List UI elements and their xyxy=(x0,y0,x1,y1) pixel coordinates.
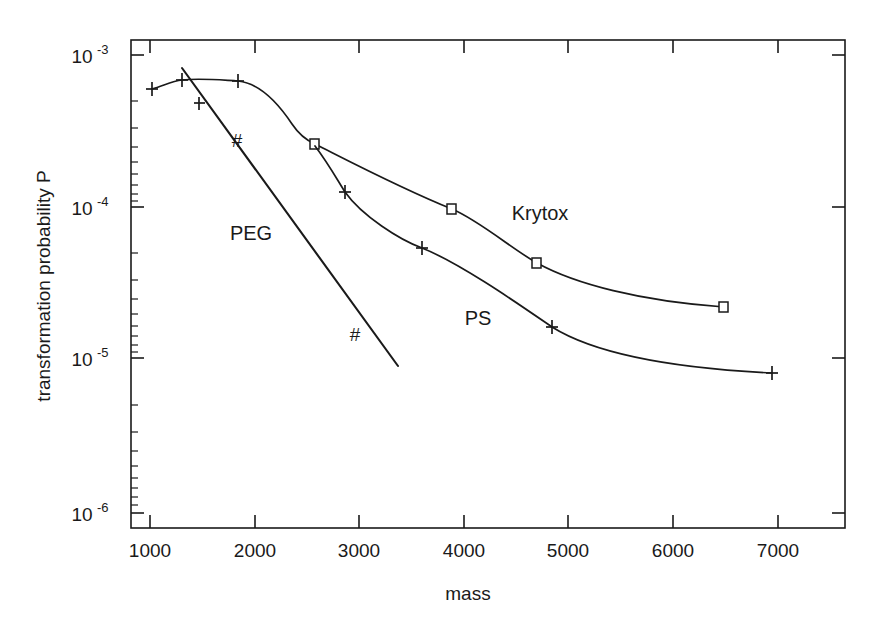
x-axis-tick-labels: 1000 2000 3000 4000 5000 6000 7000 xyxy=(129,540,799,561)
x-tick-label-5: 6000 xyxy=(652,540,694,561)
krytox-point-marker xyxy=(310,139,319,149)
series-label-peg: PEG xyxy=(230,222,272,244)
krytox-curve xyxy=(152,79,724,307)
krytox-markers xyxy=(146,73,728,312)
peg-hash-annotation-upper: # xyxy=(232,130,243,151)
peg-line xyxy=(182,68,398,366)
series-label-krytox: Krytox xyxy=(512,202,569,224)
y-tick-label-exp-0: -3 xyxy=(97,42,109,57)
ps-curve xyxy=(315,146,772,373)
x-tick-label-3: 4000 xyxy=(443,540,485,561)
krytox-point-marker xyxy=(719,302,728,312)
y-axis-tick-labels: 10 -3 10 -4 10 -5 10 -6 xyxy=(71,42,108,525)
chart-svg: 10 -3 10 -4 10 -5 10 -6 1000 2000 3000 4… xyxy=(0,0,886,633)
krytox-point-marker xyxy=(146,82,158,96)
y-tick-label-exp-3: -6 xyxy=(97,500,109,515)
x-tick-label-6: 7000 xyxy=(757,540,799,561)
y-tick-label-exp-1: -4 xyxy=(97,194,109,209)
y-tick-label-base-3: 10 xyxy=(71,504,92,525)
figure-container: 10 -3 10 -4 10 -5 10 -6 1000 2000 3000 4… xyxy=(0,0,886,633)
krytox-point-marker xyxy=(532,258,541,268)
ps-point-marker xyxy=(416,241,428,255)
x-tick-label-1: 2000 xyxy=(234,540,276,561)
peg-hash-annotation-lower: # xyxy=(350,324,361,345)
y-tick-label-base-0: 10 xyxy=(71,46,92,67)
x-tick-label-0: 1000 xyxy=(129,540,171,561)
x-tick-label-2: 3000 xyxy=(338,540,380,561)
krytox-point-marker xyxy=(447,204,456,214)
y-tick-label-base-1: 10 xyxy=(71,198,92,219)
ps-point-marker xyxy=(766,366,778,380)
x-axis-ticks xyxy=(150,40,778,528)
ps-point-marker xyxy=(546,320,558,334)
krytox-point-marker xyxy=(232,74,244,88)
series-label-ps: PS xyxy=(465,307,492,329)
y-tick-label-exp-2: -5 xyxy=(97,345,109,360)
x-tick-label-4: 5000 xyxy=(547,540,589,561)
y-axis-title: transformation probability P xyxy=(33,170,54,401)
x-axis-title: mass xyxy=(445,583,490,604)
y-tick-label-base-2: 10 xyxy=(71,349,92,370)
y-axis-minor-ticks xyxy=(131,101,138,505)
